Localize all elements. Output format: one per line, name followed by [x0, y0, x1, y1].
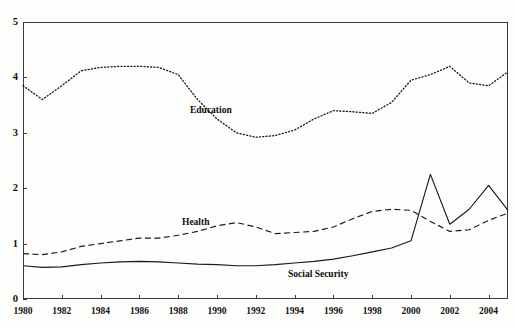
y-axis-tick-label: 5 — [2, 16, 18, 27]
cut-off-header-text — [0, 0, 515, 7]
series-label-education: Education — [190, 105, 232, 115]
chart-figure: 543210 198019821984198619881990199219941… — [0, 0, 515, 328]
x-axis-tick-label: 1998 — [352, 306, 392, 316]
x-axis-tick-label: 1990 — [197, 306, 237, 316]
plot-area: Education Health Social Security — [23, 22, 508, 299]
series-canvas — [23, 22, 508, 299]
x-axis-tick-label: 1996 — [313, 306, 353, 316]
x-axis-tick-label: 1980 — [3, 306, 43, 316]
y-axis-tick-label: 1 — [2, 238, 18, 249]
x-axis-tick-label: 1994 — [275, 306, 315, 316]
x-axis-tick-label: 1984 — [81, 306, 121, 316]
series-line-education — [23, 66, 508, 137]
x-axis-tick-label: 2002 — [430, 306, 470, 316]
x-axis-tick-label: 1992 — [236, 306, 276, 316]
y-axis-tick-label: 4 — [2, 71, 18, 82]
series-label-health: Health — [182, 217, 209, 227]
x-axis-tick-label: 1986 — [119, 306, 159, 316]
series-line-health — [23, 209, 508, 254]
y-axis-tick-label: 3 — [2, 127, 18, 138]
y-axis-tick-mark — [23, 299, 27, 300]
x-axis-tick-label: 1982 — [42, 306, 82, 316]
y-axis-tick-label: 0 — [2, 293, 18, 304]
x-axis-tick-label: 2000 — [391, 306, 431, 316]
series-label-social-security: Social Security — [288, 269, 348, 279]
y-axis-tick-label: 2 — [2, 182, 18, 193]
series-line-social-security — [23, 174, 508, 267]
x-axis-tick-label: 2004 — [469, 306, 509, 316]
x-axis-tick-label: 1988 — [158, 306, 198, 316]
